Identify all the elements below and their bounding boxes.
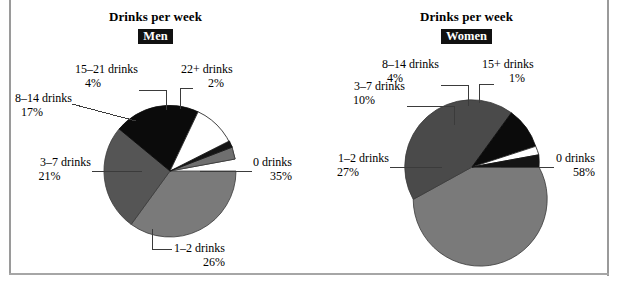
pie-label-women-1-2-drinks: 1–2 drinks 27%	[307, 152, 389, 179]
pie-label-women-8-14-drinks-name: 8–14 drinks	[382, 57, 439, 71]
pie-label-women-1-2-drinks-name: 1–2 drinks	[338, 151, 389, 165]
pie-label-women-0-drinks-name: 0 drinks	[556, 151, 595, 165]
pie-label-men-3-7-drinks-value: 21%	[8, 170, 91, 184]
pie-label-women-8-14-drinks-value: 4%	[351, 72, 439, 86]
pie-label-women-0-drinks: 0 drinks 58%	[556, 152, 595, 179]
pie-label-women-1-2-drinks-value: 27%	[307, 166, 389, 180]
pie-label-women-8-14-drinks: 8–14 drinks 4%	[351, 58, 439, 85]
pie-label-men-15-21-drinks-value: 4%	[48, 77, 138, 91]
pie-label-men-15-21-drinks: 15–21 drinks 4%	[48, 63, 138, 90]
pie-chart-women	[311, 0, 622, 282]
pie-label-women-15-plus-drinks-name: 15+ drinks	[482, 57, 534, 71]
pie-panel-women: Drinks per week Women	[311, 0, 622, 282]
pie-label-women-3-7-drinks-value: 10%	[323, 94, 405, 108]
pie-label-women-15-plus-drinks: 15+ drinks 1%	[482, 58, 552, 85]
pie-label-men-1-2-drinks-name: 1–2 drinks	[174, 241, 225, 255]
pie-label-men-3-7-drinks-name: 3–7 drinks	[40, 155, 91, 169]
pie-label-men-8-14-drinks: 8–14 drinks 17%	[0, 92, 72, 119]
pie-label-men-22-plus-drinks-name: 22+ drinks	[181, 62, 233, 76]
pie-label-men-8-14-drinks-name: 8–14 drinks	[15, 91, 72, 105]
pie-label-men-0-drinks-value: 35%	[253, 170, 292, 184]
pie-panel-men: Drinks per week Men	[0, 0, 311, 282]
pie-label-men-1-2-drinks: 1–2 drinks 26%	[174, 242, 225, 269]
pie-label-men-3-7-drinks: 3–7 drinks 21%	[8, 156, 91, 183]
pie-label-women-0-drinks-value: 58%	[556, 166, 595, 180]
pie-chart-men	[0, 0, 311, 282]
leader-men-8-14-drinks	[72, 104, 136, 121]
pie-label-men-1-2-drinks-value: 26%	[174, 256, 225, 270]
figure-canvas: Drinks per week Men	[0, 0, 622, 282]
pie-label-men-22-plus-drinks: 22+ drinks 2%	[181, 63, 251, 90]
pie-label-women-15-plus-drinks-value: 1%	[482, 72, 552, 86]
pie-label-men-15-21-drinks-name: 15–21 drinks	[75, 62, 138, 76]
pie-label-men-0-drinks-name: 0 drinks	[253, 155, 292, 169]
pie-label-men-8-14-drinks-value: 17%	[0, 106, 72, 120]
leader-men-22-plus-drinks	[180, 88, 193, 109]
pie-label-men-0-drinks: 0 drinks 35%	[253, 156, 292, 183]
pie-label-men-22-plus-drinks-value: 2%	[181, 77, 251, 91]
